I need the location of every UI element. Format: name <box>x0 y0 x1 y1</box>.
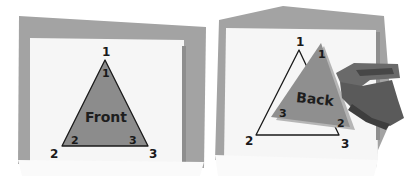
vertex-label-top: 1 <box>102 45 110 59</box>
paper-shadow-front <box>182 46 186 165</box>
vertex-label-bottom-right: 3 <box>341 137 349 151</box>
vertex-label-bottom-left: 2 <box>245 134 253 148</box>
corner-label-top: 1 <box>318 48 326 61</box>
panel-back: 1 2 3 1 3 2 Back <box>215 6 404 176</box>
corner-label-bottom-left: 3 <box>279 107 287 120</box>
vertex-label-bottom-left: 2 <box>50 147 58 161</box>
corner-label-bottom-right: 2 <box>337 117 345 130</box>
diagram-canvas: 1 2 3 1 2 3 Front 1 2 <box>0 0 416 176</box>
corner-label-bottom-right: 3 <box>129 134 137 147</box>
vertex-label-bottom-right: 3 <box>149 147 157 161</box>
corner-label-top: 1 <box>102 67 110 80</box>
panel-front: 1 2 3 1 2 3 Front <box>18 16 206 176</box>
corner-label-bottom-left: 2 <box>71 134 79 147</box>
paper-curl-front <box>18 160 204 176</box>
face-label-front: Front <box>85 109 127 125</box>
vertex-label-top: 1 <box>296 35 304 49</box>
